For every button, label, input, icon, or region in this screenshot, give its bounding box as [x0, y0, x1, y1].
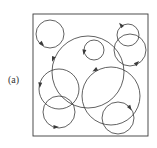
- circle-E: [114, 34, 146, 66]
- circle-H: [82, 67, 140, 125]
- arrowhead-icon: [54, 125, 60, 129]
- circle-B: [52, 36, 124, 108]
- circle-G: [43, 96, 75, 128]
- circle-F: [39, 69, 79, 109]
- circle-C: [84, 40, 104, 60]
- circle-vortex-diagram: (a): [0, 0, 157, 148]
- arrowhead-icon: [38, 82, 42, 88]
- arrowhead-icon: [82, 49, 87, 55]
- panel-label: (a): [8, 74, 19, 86]
- circles-group: [36, 20, 146, 134]
